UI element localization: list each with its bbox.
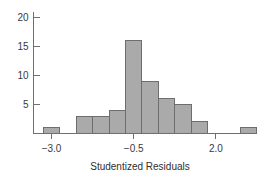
y-axis-tick-labels: 5101520 bbox=[17, 12, 29, 110]
histogram-bar bbox=[142, 81, 158, 133]
x-axis-group: −3.0−0.52.0 bbox=[34, 134, 253, 154]
y-tick-label: 10 bbox=[17, 70, 29, 81]
histogram-bar bbox=[109, 110, 125, 133]
x-tick-label: 2.0 bbox=[209, 143, 223, 154]
x-axis-title: Studentized Residuals bbox=[90, 161, 190, 172]
y-axis-group: 5101520 bbox=[17, 12, 39, 134]
histogram-bar bbox=[241, 128, 257, 134]
histogram-bar bbox=[43, 128, 59, 134]
x-tick-label: −0.5 bbox=[124, 143, 144, 154]
y-tick-label: 15 bbox=[17, 41, 29, 52]
histogram-plot-area: 5101520 −3.0−0.52.0 Studentized Residual… bbox=[0, 0, 264, 183]
y-tick-label: 5 bbox=[23, 99, 29, 110]
histogram-bar bbox=[191, 122, 207, 134]
histogram-figure: 5101520 −3.0−0.52.0 Studentized Residual… bbox=[0, 0, 264, 183]
x-axis-ticks bbox=[52, 134, 216, 139]
x-axis-tick-labels: −3.0−0.52.0 bbox=[42, 143, 224, 154]
histogram-bar bbox=[158, 99, 174, 134]
y-tick-label: 20 bbox=[17, 12, 29, 23]
y-axis-ticks bbox=[34, 18, 40, 105]
histogram-bar bbox=[76, 116, 92, 133]
x-tick-label: −3.0 bbox=[42, 143, 62, 154]
bars-group bbox=[43, 41, 257, 134]
histogram-bar bbox=[93, 116, 109, 133]
histogram-bar bbox=[126, 41, 142, 134]
histogram-bar bbox=[175, 105, 191, 134]
